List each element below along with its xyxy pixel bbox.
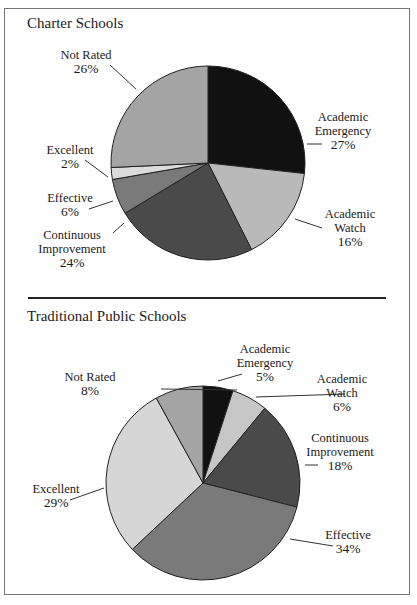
- label-pct: 16%: [320, 235, 380, 249]
- public-label-not-rated: Not Rated 8%: [60, 370, 120, 398]
- label-pct: 18%: [304, 459, 376, 473]
- charter-label-not-rated: Not Rated 26%: [56, 48, 116, 76]
- pie-slice-academic-emergency: [208, 66, 305, 174]
- label-pct: 5%: [230, 370, 300, 384]
- charter-label-continuous-improvement: Continuous Improvement 24%: [36, 228, 108, 270]
- label-name-2: Watch: [320, 221, 380, 235]
- label-name: Continuous: [36, 228, 108, 242]
- public-label-academic-watch: Academic Watch 6%: [310, 372, 374, 414]
- label-name-2: Improvement: [304, 445, 376, 459]
- public-label-excellent: Excellent 29%: [28, 482, 84, 510]
- charter-pie: [111, 66, 305, 260]
- public-label-effective: Effective 34%: [320, 528, 376, 556]
- pie-charts: [0, 0, 417, 605]
- label-name: Not Rated: [56, 48, 116, 62]
- label-pct: 24%: [36, 256, 108, 270]
- label-name: Continuous: [304, 431, 376, 445]
- public-label-academic-emergency: Academic Emergency 5%: [230, 342, 300, 384]
- label-name-2: Improvement: [36, 242, 108, 256]
- label-name-2: Emergency: [230, 356, 300, 370]
- label-name: Academic: [308, 110, 378, 124]
- label-name-2: Emergency: [308, 124, 378, 138]
- label-name: Effective: [44, 191, 96, 205]
- label-pct: 8%: [60, 384, 120, 398]
- label-pct: 29%: [28, 496, 84, 510]
- label-name: Academic: [310, 372, 374, 386]
- pie-slice-not-rated: [111, 66, 208, 168]
- public-label-continuous-improvement: Continuous Improvement 18%: [304, 431, 376, 473]
- label-name-2: Watch: [310, 386, 374, 400]
- charter-label-effective: Effective 6%: [44, 191, 96, 219]
- charter-label-academic-emergency: Academic Emergency 27%: [308, 110, 378, 152]
- label-pct: 27%: [308, 138, 378, 152]
- label-name: Effective: [320, 528, 376, 542]
- label-name: Excellent: [44, 143, 96, 157]
- charter-label-excellent: Excellent 2%: [44, 143, 96, 171]
- label-name: Academic: [230, 342, 300, 356]
- label-name: Academic: [320, 207, 380, 221]
- label-name: Not Rated: [60, 370, 120, 384]
- label-pct: 6%: [310, 400, 374, 414]
- label-pct: 34%: [320, 542, 376, 556]
- label-pct: 2%: [44, 157, 96, 171]
- label-pct: 26%: [56, 62, 116, 76]
- charter-label-academic-watch: Academic Watch 16%: [320, 207, 380, 249]
- public-pie: [106, 386, 300, 580]
- label-pct: 6%: [44, 205, 96, 219]
- label-name: Excellent: [28, 482, 84, 496]
